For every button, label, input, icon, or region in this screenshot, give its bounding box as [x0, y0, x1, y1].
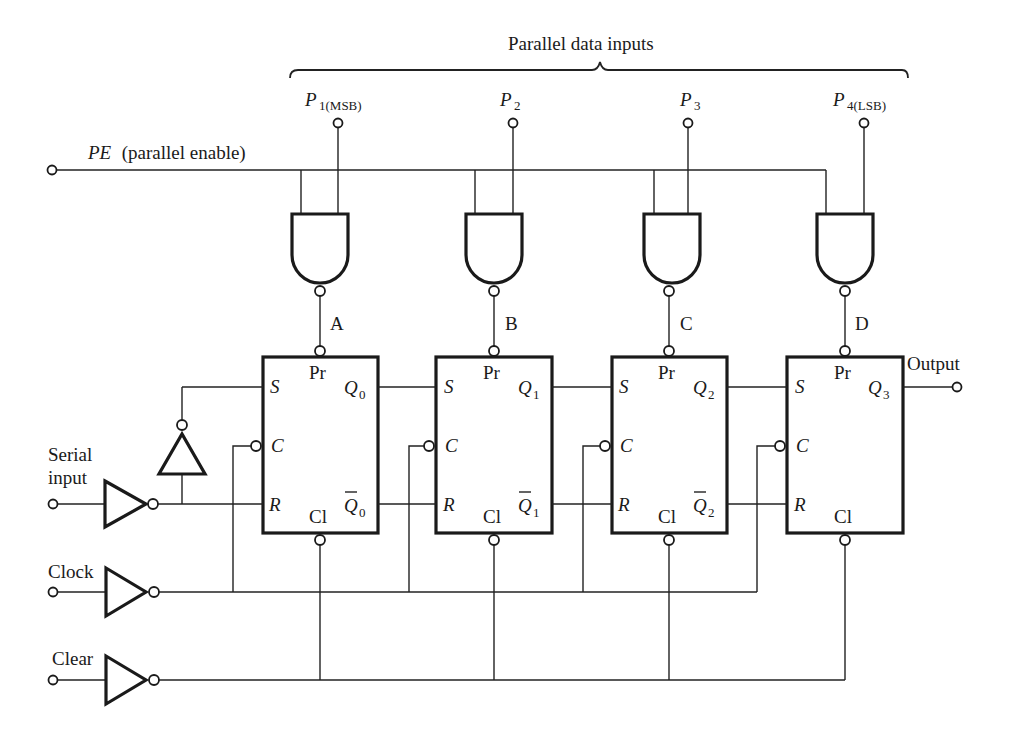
parallel-input-p4[interactable]: P 4(LSB) — [832, 89, 886, 214]
inverter-bubble — [177, 420, 187, 430]
output[interactable]: Output — [903, 353, 962, 392]
clear-label: Clear — [52, 648, 94, 669]
svg-text:Q: Q — [868, 377, 882, 398]
svg-text:1: 1 — [533, 387, 540, 402]
nand-gate-1: A — [292, 214, 348, 346]
svg-text:1: 1 — [533, 505, 540, 520]
serial-input[interactable]: Serial input — [48, 387, 263, 527]
svg-text:3: 3 — [694, 98, 701, 113]
svg-text:2: 2 — [708, 505, 715, 520]
flip-flop-3: S C R Pr Cl Q 3 — [775, 346, 903, 545]
nand-output-bubble — [489, 286, 499, 296]
parallel-input-p1[interactable]: P 1(MSB) — [304, 89, 362, 214]
svg-text:2: 2 — [708, 387, 715, 402]
svg-text:Cl: Cl — [483, 506, 501, 527]
p4-input-terminal[interactable] — [860, 119, 869, 128]
parallel-enable-line[interactable]: PE (parallel enable) — [48, 142, 827, 214]
pe-input-terminal[interactable] — [48, 166, 57, 175]
svg-text:0: 0 — [359, 505, 366, 520]
nand-gate-2: B — [466, 214, 522, 346]
gate-output-d: D — [855, 313, 869, 334]
clear-bubble — [664, 535, 674, 545]
svg-text:R: R — [793, 494, 806, 515]
clear-bubble — [489, 535, 499, 545]
preset-bubble — [840, 346, 850, 356]
svg-text:Q: Q — [344, 495, 358, 516]
clear-bubble — [315, 535, 325, 545]
svg-text:3: 3 — [883, 387, 890, 402]
svg-text:2: 2 — [514, 98, 521, 113]
pe-desc: (parallel enable) — [117, 142, 246, 164]
nand-output-bubble — [664, 286, 674, 296]
serial-label-line1: Serial — [48, 444, 92, 465]
svg-text:P: P — [832, 89, 845, 110]
svg-text:P: P — [679, 89, 692, 110]
clock-input-terminal[interactable] — [49, 588, 58, 597]
clock-inverter — [106, 568, 146, 616]
svg-text:R: R — [442, 494, 455, 515]
svg-text:Q: Q — [518, 495, 532, 516]
parallel-inputs-bracket: Parallel data inputs — [290, 33, 908, 78]
svg-text:1(MSB): 1(MSB) — [319, 98, 362, 113]
preset-bubble — [664, 346, 674, 356]
gate-output-c: C — [680, 313, 693, 334]
inverter-bubble — [148, 499, 158, 509]
svg-text:C: C — [796, 435, 809, 456]
clear-input[interactable]: Clear — [49, 545, 846, 704]
svg-text:Q: Q — [344, 377, 358, 398]
svg-text:Q: Q — [693, 377, 707, 398]
clear-input-terminal[interactable] — [49, 676, 58, 685]
clear-inverter — [106, 656, 146, 704]
serial-inverter — [105, 481, 146, 527]
svg-text:Pr: Pr — [483, 362, 501, 383]
clock-bubble — [600, 441, 610, 451]
svg-text:Q: Q — [518, 377, 532, 398]
svg-text:S: S — [619, 376, 629, 397]
svg-text:Q: Q — [693, 495, 707, 516]
inverter-bubble — [149, 587, 159, 597]
p1-input-terminal[interactable] — [334, 119, 343, 128]
svg-text:C: C — [271, 435, 284, 456]
svg-text:Pr: Pr — [658, 362, 676, 383]
preset-bubble — [489, 346, 499, 356]
svg-text:S: S — [444, 376, 454, 397]
nand-output-bubble — [315, 286, 325, 296]
clock-label: Clock — [48, 561, 94, 582]
clock-bubble — [251, 441, 261, 451]
bracket-label: Parallel data inputs — [508, 33, 654, 54]
svg-text:C: C — [445, 435, 458, 456]
inverter-bubble — [149, 675, 159, 685]
svg-text:Pr: Pr — [309, 362, 327, 383]
serial-input-terminal[interactable] — [49, 500, 58, 509]
svg-text:C: C — [620, 435, 633, 456]
svg-text:0: 0 — [359, 387, 366, 402]
svg-text:S: S — [270, 376, 280, 397]
svg-text:P: P — [499, 89, 512, 110]
svg-text:4(LSB): 4(LSB) — [847, 98, 886, 113]
nand-gate-4: D — [817, 214, 873, 346]
nand-output-bubble — [840, 286, 850, 296]
p3-input-terminal[interactable] — [684, 119, 693, 128]
svg-text:R: R — [617, 494, 630, 515]
preset-bubble — [315, 346, 325, 356]
output-label: Output — [907, 353, 961, 374]
clear-bubble — [840, 535, 850, 545]
nand-gate-3: C — [644, 214, 700, 346]
svg-text:Cl: Cl — [309, 506, 327, 527]
flip-flop-2: S C R Pr Cl Q 2 Q 2 — [600, 346, 727, 545]
serial-label-line2: input — [48, 467, 88, 488]
svg-text:Cl: Cl — [834, 506, 852, 527]
svg-text:Cl: Cl — [658, 506, 676, 527]
parallel-input-p2[interactable]: P 2 — [499, 89, 521, 214]
svg-text:Pr: Pr — [834, 362, 852, 383]
clock-bubble — [424, 441, 434, 451]
svg-text:P: P — [304, 89, 317, 110]
clock-bubble — [775, 441, 785, 451]
p2-input-terminal[interactable] — [509, 119, 518, 128]
flip-flop-1: S C R Pr Cl Q 1 Q 1 — [424, 346, 552, 545]
set-inverter — [159, 434, 205, 474]
output-terminal[interactable] — [953, 383, 962, 392]
shift-register-schematic: Parallel data inputs P 1(MSB) P 2 P 3 P … — [0, 0, 1019, 740]
parallel-input-p3[interactable]: P 3 — [679, 89, 701, 214]
flip-flop-0: S C R Pr Cl Q 0 Q 0 — [251, 346, 378, 545]
